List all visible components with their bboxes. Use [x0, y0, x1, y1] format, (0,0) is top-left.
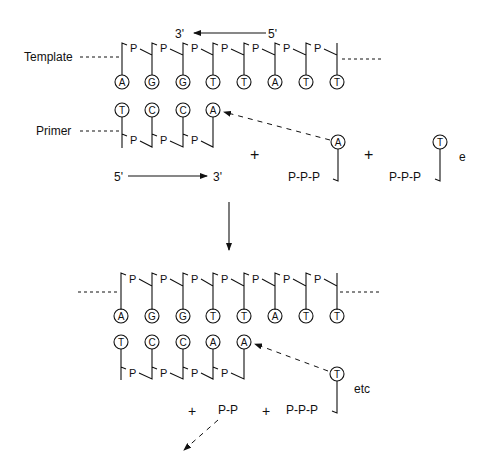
svg-text:T: T: [334, 369, 340, 380]
phosphate-label: P: [191, 134, 198, 146]
primer-backbone: P P P P: [121, 349, 244, 380]
phosphate-label: P: [252, 273, 259, 285]
bottom-section: P P P P P P P A G G T T A T T T C C A A: [78, 273, 382, 450]
base-C: C: [176, 335, 190, 349]
svg-text:T: T: [241, 77, 247, 88]
phosphate-label: P: [160, 42, 167, 54]
phosphate-label: P: [191, 367, 198, 379]
base-A: A: [237, 335, 251, 349]
svg-text:G: G: [179, 77, 187, 88]
base-A: A: [114, 309, 128, 323]
trailing-text: e: [459, 150, 466, 164]
primer-3prime-label: 3': [213, 170, 222, 184]
phosphate-label: P: [129, 367, 136, 379]
polymerase-diagram: 3' 5' Template P P P P P P P: [0, 0, 490, 476]
top-section: 3' 5' Template P P P P P P P: [24, 27, 466, 184]
svg-text:C: C: [148, 337, 155, 348]
primer-label: Primer: [36, 124, 71, 138]
base-T: T: [237, 309, 251, 323]
base-A: A: [206, 335, 220, 349]
phosphate-label: P: [160, 134, 167, 146]
svg-text:T: T: [334, 311, 340, 322]
phosphate-label: P: [252, 42, 259, 54]
svg-text:G: G: [148, 311, 156, 322]
base-G: G: [145, 309, 159, 323]
phosphate-label: P: [130, 42, 137, 54]
svg-text:T: T: [210, 77, 216, 88]
trailing-text: etc: [354, 382, 370, 396]
plus-sign: +: [250, 146, 259, 163]
svg-text:T: T: [303, 77, 309, 88]
base-T: T: [115, 103, 129, 117]
base-A: A: [206, 103, 220, 117]
primer-bases: T C C A A: [114, 335, 251, 349]
template-direction-arrow: 3' 5': [175, 27, 277, 41]
svg-text:T: T: [118, 337, 124, 348]
svg-text:A: A: [335, 137, 342, 148]
base-G: G: [176, 75, 190, 89]
svg-text:A: A: [118, 311, 125, 322]
svg-text:T: T: [437, 137, 443, 148]
svg-text:C: C: [179, 105, 186, 116]
phosphate-label: P: [191, 42, 198, 54]
incoming-nucleotide-t: T P-P-P: [286, 367, 344, 417]
base-T: T: [237, 75, 251, 89]
phosphate-label: P: [129, 273, 136, 285]
base-T: T: [330, 309, 344, 323]
svg-text:A: A: [210, 337, 217, 348]
svg-text:T: T: [303, 311, 309, 322]
svg-text:C: C: [179, 337, 186, 348]
svg-text:T: T: [241, 311, 247, 322]
phosphate-label: P: [314, 273, 321, 285]
primer-bases: T C C A: [115, 103, 220, 117]
svg-text:A: A: [210, 105, 217, 116]
svg-text:T: T: [119, 105, 125, 116]
base-T: T: [114, 335, 128, 349]
base-T: T: [330, 75, 344, 89]
triphosphate-label: P-P-P: [286, 403, 318, 417]
template-backbone: P P P P P P P: [122, 42, 337, 75]
incoming-nucleotide-a: A P-P-P: [288, 135, 345, 184]
base-C: C: [145, 103, 159, 117]
svg-text:A: A: [272, 77, 279, 88]
phosphate-label: P: [160, 273, 167, 285]
base-A: A: [115, 75, 129, 89]
phosphate-label: P: [221, 42, 228, 54]
triphosphate-label: P-P-P: [288, 170, 320, 184]
svg-text:A: A: [119, 77, 126, 88]
incoming-dashed-arrow: [255, 344, 328, 371]
phosphate-label: P: [221, 367, 228, 379]
phosphate-label: P: [130, 134, 137, 146]
base-C: C: [145, 335, 159, 349]
template-3prime-label: 3': [175, 27, 184, 41]
pyrophosphate-label: P-P: [218, 403, 238, 417]
svg-text:A: A: [241, 337, 248, 348]
release-dashed-arrow: [184, 420, 218, 450]
phosphate-label: P: [221, 273, 228, 285]
plus-sign: +: [364, 146, 373, 163]
phosphate-label: P: [160, 367, 167, 379]
base-C: C: [176, 103, 190, 117]
template-backbone: P P P P P P P: [121, 273, 337, 310]
template-bases: A G G T T A T T: [114, 309, 344, 323]
svg-text:T: T: [334, 77, 340, 88]
primer-direction-arrow: 5' 3': [114, 170, 222, 184]
phosphate-label: P: [314, 42, 321, 54]
svg-text:G: G: [179, 311, 187, 322]
base-A: A: [268, 75, 282, 89]
phosphate-label: P: [191, 273, 198, 285]
primer-5prime-label: 5': [114, 170, 123, 184]
svg-text:T: T: [210, 311, 216, 322]
incoming-dashed-arrow: [224, 112, 330, 140]
triphosphate-label: P-P-P: [389, 170, 421, 184]
svg-text:G: G: [148, 77, 156, 88]
phosphate-label: P: [283, 42, 290, 54]
template-5prime-label: 5': [268, 27, 277, 41]
base-A: A: [268, 309, 282, 323]
template-label: Template: [24, 50, 73, 64]
base-T: T: [206, 309, 220, 323]
svg-text:A: A: [272, 311, 279, 322]
base-T: T: [299, 309, 313, 323]
primer-backbone: P P P: [122, 117, 213, 148]
phosphate-label: P: [283, 273, 290, 285]
